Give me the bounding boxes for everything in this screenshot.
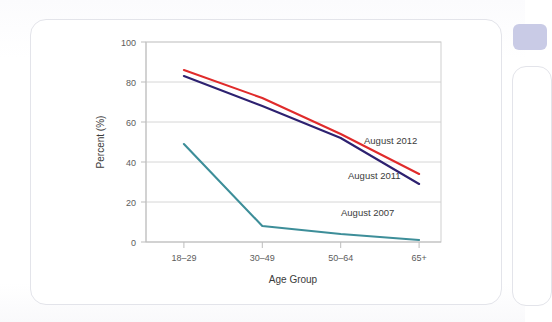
y-tickmarks	[141, 42, 146, 242]
series-label-august-2011: August 2011	[348, 170, 401, 181]
x-tick-label-30-49: 30–49	[250, 253, 275, 263]
line-chart: 100 80 60 40 20 0 18–29 30–49 50–64 65+	[31, 20, 503, 306]
series-label-august-2012: August 2012	[364, 135, 417, 146]
series-line-august-2007	[184, 144, 419, 240]
x-tickmarks	[184, 242, 419, 248]
y-tick-label-60: 60	[126, 118, 136, 128]
side-panel	[512, 66, 552, 306]
y-tick-label-40: 40	[126, 158, 136, 168]
side-panel-badge	[513, 24, 547, 50]
figure-card: 100 80 60 40 20 0 18–29 30–49 50–64 65+	[30, 19, 502, 305]
x-tick-label-65plus: 65+	[411, 253, 426, 263]
y-tick-label-20: 20	[126, 198, 136, 208]
x-tick-labels: 18–29 30–49 50–64 65+	[171, 253, 426, 263]
x-tick-label-18-29: 18–29	[171, 253, 196, 263]
y-axis-title: Percent (%)	[95, 116, 106, 169]
x-tick-label-50-64: 50–64	[328, 253, 353, 263]
y-tick-label-100: 100	[121, 38, 136, 48]
series-label-august-2007: August 2007	[341, 207, 394, 218]
series-line-august-2011	[184, 76, 419, 184]
y-tick-label-80: 80	[126, 78, 136, 88]
y-tick-label-0: 0	[131, 238, 136, 248]
x-axis-title: Age Group	[269, 274, 318, 285]
y-tick-labels: 100 80 60 40 20 0	[121, 38, 136, 248]
